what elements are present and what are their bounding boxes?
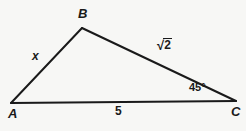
angle-label-c: 45°	[189, 82, 206, 93]
vertex-label-b: B	[78, 7, 87, 20]
side-label-bc: √2	[157, 38, 172, 52]
side-AC-line	[11, 101, 236, 103]
triangle-diagram: A B C x √2 5 45°	[0, 0, 246, 131]
triangle-outline-svg	[0, 0, 246, 131]
radicand-value: 2	[163, 38, 172, 51]
vertex-label-c: C	[231, 105, 240, 118]
side-AB-line	[11, 28, 82, 103]
vertex-label-a: A	[8, 107, 17, 120]
side-label-ab: x	[32, 50, 39, 62]
side-label-ac: 5	[115, 105, 122, 117]
